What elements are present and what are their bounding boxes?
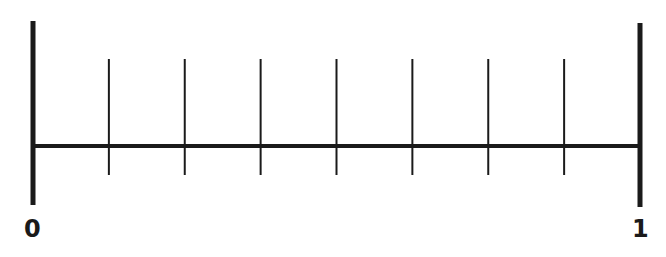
- tick-marks: [109, 59, 564, 175]
- number-line-diagram: 0 1: [0, 0, 666, 257]
- start-label: 0: [24, 217, 41, 241]
- end-label: 1: [632, 217, 649, 241]
- number-line-svg: [0, 0, 666, 257]
